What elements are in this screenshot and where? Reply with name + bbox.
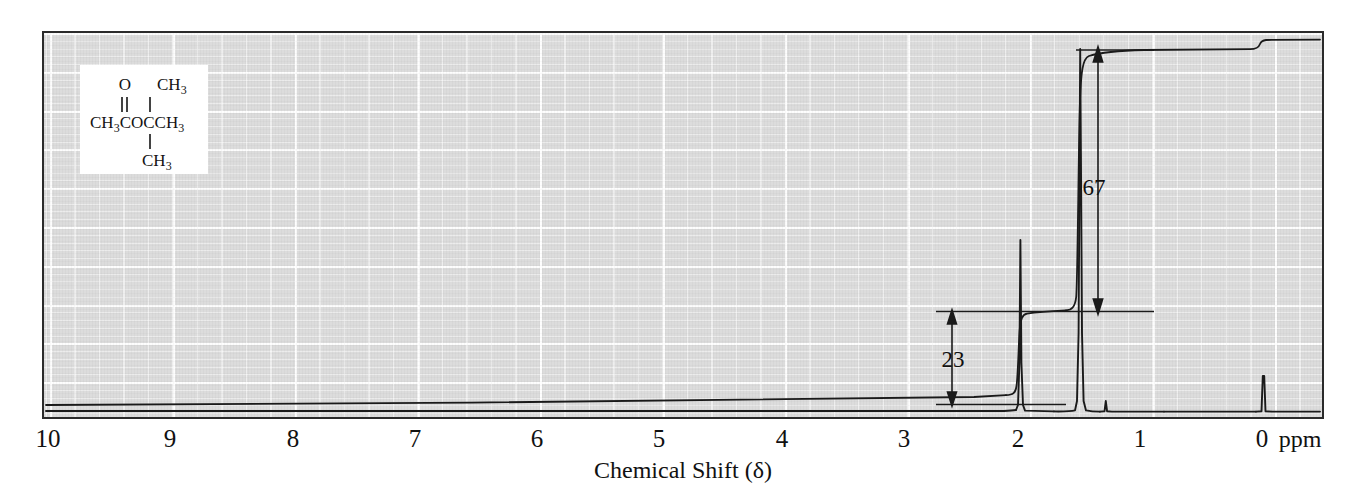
peak-tms — [1256, 376, 1320, 412]
spectrum-traces — [44, 33, 1324, 419]
spectrum-trace-group — [46, 49, 1320, 412]
axis-tick-0: 0 — [1256, 425, 1269, 453]
spectrum-plot-area: O CH3 CH3COCCH3 CH3 — [42, 31, 1324, 419]
structure-label-bottom-methyl: CH3 — [142, 151, 172, 172]
baseline-left-segment — [46, 410, 1016, 411]
peak-ch3co — [1016, 240, 1054, 411]
x-axis-tick-labels: 10 9 8 7 6 5 4 3 2 1 0 ppm — [0, 425, 1366, 459]
peak-impurity — [1100, 401, 1164, 412]
integration-label-67: 67 — [1083, 175, 1106, 201]
axis-tick-3: 3 — [898, 425, 911, 453]
integration-label-23: 23 — [942, 347, 965, 373]
integral-baseline-left — [46, 395, 1006, 405]
axis-tick-6: 6 — [531, 425, 544, 453]
structure-diagram: O CH3 CH3COCCH3 CH3 — [84, 68, 204, 172]
axis-tick-5: 5 — [653, 425, 666, 453]
axis-tick-8: 8 — [287, 425, 300, 453]
integral-step-23 — [1006, 310, 1066, 395]
axis-tick-4: 4 — [776, 425, 789, 453]
axis-tick-1: 1 — [1134, 425, 1147, 453]
axis-tick-2: 2 — [1012, 425, 1025, 453]
integral-tail — [1144, 40, 1320, 50]
axis-tick-9: 9 — [164, 425, 177, 453]
structure-label-oxygen: O — [119, 75, 131, 94]
integration-measure-group — [936, 47, 1154, 406]
structure-label-top-methyl: CH3 — [157, 75, 187, 97]
axis-tick-10: 10 — [36, 425, 61, 453]
x-axis-title: Chemical Shift (δ) — [0, 457, 1366, 484]
axis-tick-7: 7 — [409, 425, 422, 453]
nmr-spectrum-figure: O CH3 CH3COCCH3 CH3 — [0, 0, 1366, 503]
integral-trace-group — [46, 40, 1320, 405]
axis-unit-label: ppm — [1279, 425, 1322, 453]
structure-inset: O CH3 CH3COCCH3 CH3 — [80, 65, 208, 174]
structure-label-backbone: CH3COCCH3 — [90, 113, 184, 135]
